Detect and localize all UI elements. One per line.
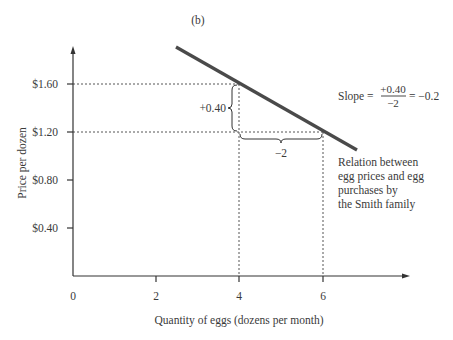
guide-lines	[73, 84, 323, 276]
slope-numerator: +0.40	[380, 83, 406, 95]
y-tick-label: $1.60	[32, 78, 58, 90]
slope-formula: Slope = +0.40 −2 = −0.2	[338, 83, 439, 109]
y-tick-label: $0.80	[32, 174, 58, 186]
y-tick-label: $0.40	[32, 222, 58, 234]
note-line: Relation between	[338, 156, 418, 168]
x-tick-marks	[156, 276, 323, 282]
x-tick-label: 6	[320, 290, 326, 302]
slope-prefix: Slope =	[338, 90, 374, 103]
slope-chart: (b) $1.60 $1.20 $0.80 $0.40 0 2 4 6 Quan…	[0, 0, 453, 340]
x-tick-label: 2	[153, 290, 159, 302]
note-line: the Smith family	[338, 198, 416, 211]
relation-note: Relation between egg prices and egg purc…	[338, 156, 424, 211]
note-line: purchases by	[338, 184, 398, 197]
run-label: −2	[275, 147, 287, 159]
y-axis-arrow-icon	[71, 46, 76, 54]
run-brace	[240, 134, 322, 143]
slope-result: = −0.2	[409, 90, 439, 102]
y-axis-title: Price per dozen	[16, 127, 29, 199]
x-tick-label: 4	[236, 290, 242, 302]
y-tick-marks	[67, 84, 73, 228]
slope-denominator: −2	[387, 97, 399, 109]
rise-label: +0.40	[199, 102, 226, 114]
x-axis-arrow-icon	[402, 274, 410, 279]
x-tick-label: 0	[70, 290, 76, 302]
x-axis-title: Quantity of eggs (dozens per month)	[155, 314, 324, 327]
y-tick-label: $1.20	[32, 126, 58, 138]
rise-brace	[228, 85, 237, 131]
demand-line	[176, 47, 357, 150]
panel-label: (b)	[191, 14, 205, 27]
note-line: egg prices and egg	[338, 170, 424, 183]
